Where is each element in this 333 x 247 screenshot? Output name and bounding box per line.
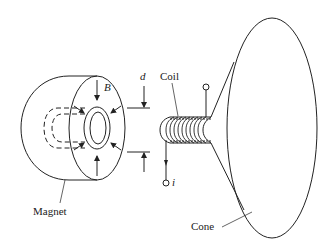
label-coil: Coil	[160, 71, 179, 82]
voice-coil	[160, 83, 211, 186]
label-cone: Cone	[191, 221, 214, 232]
magnet	[21, 76, 125, 203]
gap-dimension	[127, 86, 150, 172]
label-field-b: B	[104, 82, 111, 93]
label-current-i: i	[172, 177, 175, 188]
label-magnet: Magnet	[33, 206, 67, 217]
label-gap-d: d	[140, 71, 146, 82]
speaker-cone	[211, 18, 317, 238]
